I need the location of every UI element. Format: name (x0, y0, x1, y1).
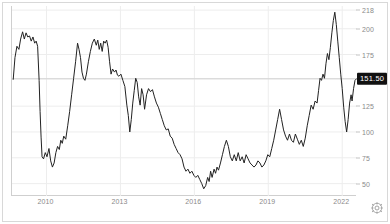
y-tick-mark (356, 106, 360, 107)
y-axis-tick-label: 50 (362, 180, 370, 187)
y-tick-mark (356, 54, 360, 55)
current-price-badge: 151.50 (357, 73, 387, 86)
y-axis-tick-label: 200 (362, 25, 374, 32)
y-axis-tick-label: 218 (362, 7, 374, 14)
x-axis-tick-label: 2010 (38, 198, 54, 205)
x-axis-tick-label: 2022 (333, 198, 349, 205)
y-axis: 5075100125151.50175200218 (356, 6, 390, 196)
price-history-chart-widget: 5075100125151.50175200218 20102013201620… (0, 0, 390, 224)
x-axis-tick-label: 2016 (185, 198, 201, 205)
y-axis-tick-label: 125 (362, 103, 374, 110)
y-tick-mark (356, 183, 360, 184)
gear-icon-svg (371, 202, 383, 214)
price-series-line (13, 12, 356, 189)
y-axis-tick-label: 175 (362, 51, 374, 58)
y-tick-mark (356, 10, 360, 11)
y-tick-mark (356, 28, 360, 29)
y-axis-tick-label: 75 (362, 154, 370, 161)
gear-icon[interactable] (371, 200, 383, 212)
plot-area[interactable] (11, 6, 356, 196)
y-tick-mark (356, 157, 360, 158)
x-axis-tick-label: 2019 (259, 198, 275, 205)
x-axis-tick-label: 2013 (111, 198, 127, 205)
x-axis: 20102013201620192022 (11, 198, 356, 212)
y-axis-tick-label: 100 (362, 128, 374, 135)
chart-plot-svg (12, 6, 357, 196)
y-tick-mark (356, 131, 360, 132)
